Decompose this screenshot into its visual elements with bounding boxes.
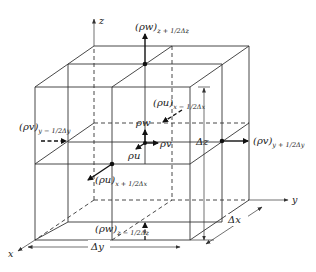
rho-w-label: ρw xyxy=(135,117,151,128)
flux-u-front: (ρu)x + 1/2Δx xyxy=(88,162,148,188)
box-edges xyxy=(35,46,249,240)
x-axis-label: x xyxy=(8,248,14,259)
svg-text:(ρv)y − 1/2Δy: (ρv)y − 1/2Δy xyxy=(19,121,71,135)
dimension-dy: Δy xyxy=(28,240,180,252)
svg-text:(ρu)x − 1/2Δx: (ρu)x − 1/2Δx xyxy=(153,97,206,111)
x-axis xyxy=(35,200,94,240)
flux-v-right: (ρv)y + 1/2Δy xyxy=(220,135,305,149)
svg-text:Δx: Δx xyxy=(227,214,241,225)
svg-text:(ρw)z + 1/2Δz: (ρw)z + 1/2Δz xyxy=(135,21,189,35)
control-volume-diagram: z y x xyxy=(0,0,316,272)
svg-text:Δz: Δz xyxy=(195,136,209,147)
rho-u-label: ρu xyxy=(127,150,140,161)
flux-u-back: (ρu)x − 1/2Δx xyxy=(153,97,206,122)
dimension-dx: Δx xyxy=(190,207,262,244)
flux-v-left: (ρv)y − 1/2Δy xyxy=(19,121,71,141)
svg-text:(ρv)y + 1/2Δy: (ρv)y + 1/2Δy xyxy=(253,135,305,149)
rho-v-label: ρv xyxy=(159,138,172,149)
center-flux-triad: ρw ρv ρu xyxy=(127,117,172,161)
flux-w-top: (ρw)z + 1/2Δz xyxy=(135,21,189,66)
svg-text:Δy: Δy xyxy=(90,241,104,252)
svg-text:(ρw)z − 1/2Δz: (ρw)z − 1/2Δz xyxy=(95,223,149,237)
x-axis-ext xyxy=(18,240,35,251)
y-axis-label: y xyxy=(291,194,298,205)
z-axis-label: z xyxy=(98,15,105,26)
svg-text:(ρu)x + 1/2Δx: (ρu)x + 1/2Δx xyxy=(95,174,148,188)
flux-w-bottom: (ρw)z − 1/2Δz xyxy=(95,223,149,240)
